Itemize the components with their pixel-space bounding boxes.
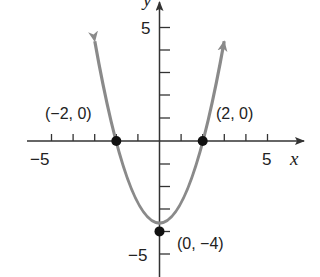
point-label-neg2-0: (−2, 0) xyxy=(45,105,92,122)
point-neg2-0 xyxy=(111,136,121,146)
x-axis-label: x xyxy=(289,148,299,169)
point-label-2-0: (2, 0) xyxy=(216,105,253,122)
x-tick-label-neg5: −5 xyxy=(30,150,49,169)
point-2-0 xyxy=(198,136,208,146)
parabola-graph: −5 5 5 −5 x y (−2, 0) (2, 0) (0, −4) xyxy=(0,0,320,277)
y-tick-label-5: 5 xyxy=(141,19,150,38)
point-label-vertex: (0, −4) xyxy=(177,235,224,252)
y-tick-label-neg5: −5 xyxy=(128,246,147,265)
x-tick-label-5: 5 xyxy=(262,150,271,169)
point-vertex xyxy=(155,226,165,236)
y-axis-label: y xyxy=(141,0,152,10)
